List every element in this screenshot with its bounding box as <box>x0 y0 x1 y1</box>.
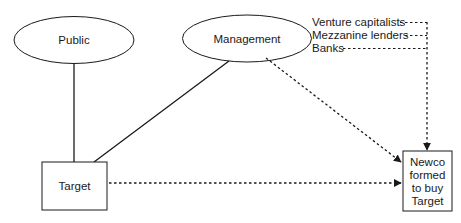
newco-label-line-1: Newco <box>410 156 445 168</box>
newco-label-line-2: formed <box>410 169 446 181</box>
public-label: Public <box>58 34 90 46</box>
newco-label-line-4: Target <box>412 195 445 207</box>
target-label: Target <box>59 180 92 192</box>
funding-source-banks: Banks <box>312 42 344 54</box>
target-node: Target <box>42 162 107 210</box>
lbo-diagram: Public Management Target Newco formed to… <box>0 0 461 223</box>
edge-management-newco <box>266 58 401 162</box>
funding-source-venture-capitalists: Venture capitalists <box>312 16 406 28</box>
funding-source-mezzanine-lenders: Mezzanine lenders <box>312 29 409 41</box>
public-node: Public <box>14 17 134 64</box>
newco-node: Newco formed to buy Target <box>403 151 452 211</box>
funding-sources: Venture capitalists Mezzanine lenders Ba… <box>312 16 427 150</box>
management-node: Management <box>183 15 312 62</box>
newco-label-line-3: to buy <box>412 182 444 194</box>
management-label: Management <box>213 33 281 45</box>
edge-management-target <box>94 61 229 162</box>
